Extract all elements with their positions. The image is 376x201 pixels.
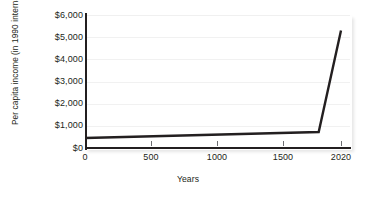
y-axis-title: Per capita income (in 1990 international… [0, 0, 32, 105]
data-series-line [85, 15, 350, 148]
y-axis-tick-label: $1,000 [39, 121, 83, 130]
x-axis-tick-labels: 0500100015002020 [0, 152, 376, 166]
y-axis-tick-label: $3,000 [39, 77, 83, 86]
x-axis-tick-label: 2020 [331, 152, 351, 163]
x-axis-tick-label: 1000 [207, 152, 227, 163]
y-axis-tick-label: $2,000 [39, 99, 83, 108]
x-axis-title: Years [0, 174, 376, 184]
y-axis-title-line2: (in 1990 international dollars) [10, 0, 21, 55]
y-axis-title-line1: Per capita income [10, 57, 21, 125]
y-axis-tick-label: $6,000 [39, 11, 83, 20]
y-axis-tick-label: $4,000 [39, 55, 83, 64]
x-axis-tick-label: 1500 [273, 152, 293, 163]
chart-figure: Per capita income (in 1990 international… [0, 0, 376, 201]
x-axis-tick-label: 0 [82, 152, 87, 163]
y-axis-tick-labels: $0$1,000$2,000$3,000$4,000$5,000$6,000 [38, 0, 83, 201]
y-axis-tick-label: $5,000 [39, 33, 83, 42]
series-polyline [85, 31, 341, 139]
x-axis-tick-label: 500 [143, 152, 158, 163]
